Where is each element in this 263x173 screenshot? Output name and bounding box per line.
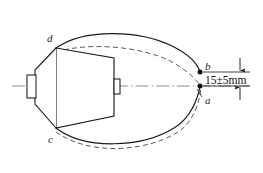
- label-point-c: c: [48, 134, 53, 145]
- label-point-d: d: [47, 33, 53, 44]
- nose-taper-left: [35, 48, 56, 128]
- mounting-tab-right: [114, 79, 120, 94]
- point-marker-a: [198, 84, 203, 89]
- main-body-trapezoid: [56, 48, 114, 128]
- mounting-tab-left: [27, 75, 36, 98]
- dimension-label: 15±5mm: [205, 75, 246, 87]
- label-point-b: b: [205, 61, 211, 72]
- engineering-diagram-figure: d c b a 15±5mm: [0, 0, 263, 173]
- diagram-canvas: [0, 0, 263, 173]
- point-marker-b: [198, 70, 203, 75]
- label-point-a: a: [205, 95, 211, 106]
